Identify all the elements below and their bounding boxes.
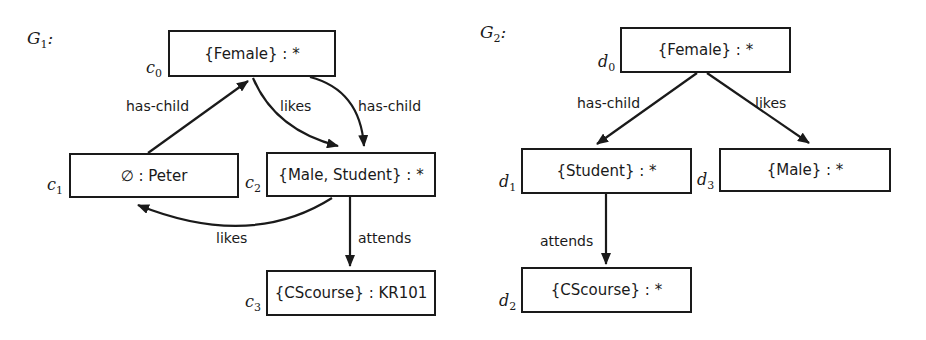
node-id-d2: d2 [499, 291, 516, 313]
edge-c1-c0-has-child [148, 81, 248, 153]
graph-title-g2: G2: [480, 22, 506, 45]
node-label: {Student} : * [556, 162, 656, 180]
node-label: {Male} : * [767, 161, 844, 179]
node-label: {CScourse} : KR101 [275, 284, 428, 302]
edge-label-c0-c2-likes: likes [280, 98, 311, 114]
edge-label-d1-d2: attends [540, 233, 593, 249]
node-id-c1: c1 [47, 175, 63, 197]
node-id-d0: d0 [598, 52, 615, 74]
edge-label-c2-c1: likes [216, 230, 247, 246]
node-label: {Male, Student} : * [278, 166, 423, 184]
node-label: ∅ : Peter [121, 167, 188, 185]
edge-label-c0-c2-has-child: has-child [358, 98, 421, 114]
node-label: {Female} : * [204, 45, 299, 63]
node-id-d3: d3 [697, 170, 714, 192]
node-c0: {Female} : * [168, 30, 336, 77]
diagram-canvas: G1: {Female} : * c0 ∅ : Peter c1 {Male, … [0, 0, 926, 340]
node-d3: {Male} : * [719, 148, 891, 192]
edge-c2-c1-likes [138, 198, 332, 226]
edge-label-c1-c0: has-child [126, 98, 189, 114]
node-d2: {CScourse} : * [521, 267, 692, 313]
node-d1: {Student} : * [521, 148, 692, 194]
node-label: {CScourse} : * [551, 281, 662, 299]
edge-label-d0-d1: has-child [577, 95, 640, 111]
graph-title-g1: G1: [27, 28, 53, 51]
edge-label-c2-c3: attends [358, 230, 411, 246]
edge-label-d0-d3: likes [755, 95, 786, 111]
node-id-c0: c0 [146, 58, 162, 80]
node-c1: ∅ : Peter [69, 153, 239, 198]
node-id-d1: d1 [499, 172, 516, 194]
node-c2: {Male, Student} : * [266, 152, 436, 197]
node-c3: {CScourse} : KR101 [266, 270, 436, 316]
node-id-c2: c2 [245, 173, 261, 195]
edge-c0-c2-has-child [310, 77, 364, 146]
node-d0: {Female} : * [620, 27, 791, 73]
node-id-c3: c3 [245, 292, 261, 314]
node-label: {Female} : * [658, 41, 753, 59]
